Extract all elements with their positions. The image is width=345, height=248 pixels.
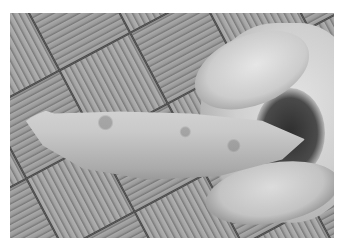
photo <box>10 13 334 238</box>
